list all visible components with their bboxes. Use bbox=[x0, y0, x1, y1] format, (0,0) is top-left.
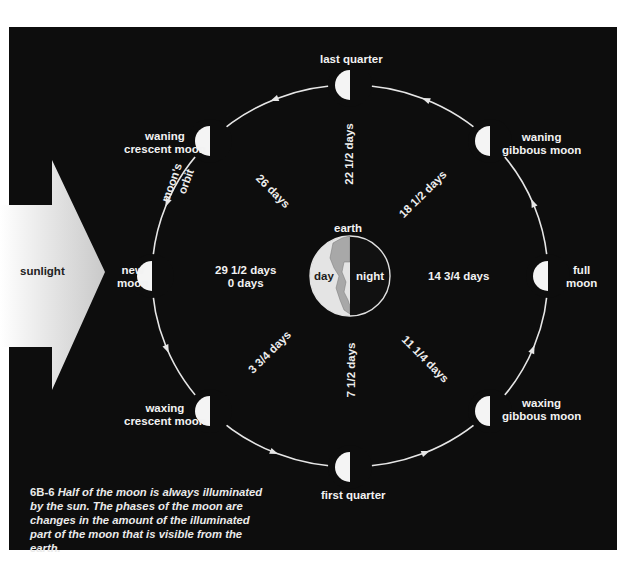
figure-caption-text: Half of the moon is always illuminated b… bbox=[30, 486, 262, 554]
phase-label-waning-crescent: waning crescent moon bbox=[124, 130, 206, 156]
orbit-direction-arrow-icon bbox=[269, 448, 278, 454]
orbit-direction-arrow-icon bbox=[163, 344, 169, 353]
phase-label-line: waxing bbox=[124, 402, 206, 415]
earth-night-label: night bbox=[356, 270, 384, 283]
earth-label: earth bbox=[334, 222, 362, 235]
days-first-quarter: 7 1/2 days bbox=[345, 343, 357, 398]
phase-label-waning-gibbous: waning gibbous moon bbox=[502, 131, 581, 157]
phase-label-line: first quarter bbox=[321, 489, 386, 502]
earth-day-label: day bbox=[314, 270, 334, 283]
orbit-direction-arrow-icon bbox=[528, 345, 534, 354]
orbit-direction-arrow-icon bbox=[421, 451, 430, 457]
phase-label-line: waning bbox=[502, 131, 581, 144]
sunlight-label: sunlight bbox=[20, 265, 65, 277]
phase-label-new-moon: new moon bbox=[117, 264, 148, 290]
phase-label-line: full bbox=[566, 264, 597, 277]
phase-label-line: gibbous moon bbox=[502, 144, 581, 157]
orbit-direction-arrow-icon bbox=[422, 98, 431, 104]
orbit-direction-arrow-icon bbox=[531, 199, 537, 208]
phase-label-line: new bbox=[117, 264, 148, 277]
phase-label-waxing-crescent: waxing crescent moon bbox=[124, 402, 206, 428]
days-line: 0 days bbox=[215, 277, 276, 290]
phase-label-line: moon bbox=[566, 277, 597, 290]
days-line: 29 1/2 days bbox=[215, 264, 276, 277]
phase-label-line: last quarter bbox=[320, 53, 383, 66]
phase-label-line: moon bbox=[117, 277, 148, 290]
phase-label-line: crescent moon bbox=[124, 143, 206, 156]
days-new-moon: 29 1/2 days 0 days bbox=[215, 264, 276, 290]
days-last-quarter: 22 1/2 days bbox=[343, 123, 355, 184]
phase-label-waxing-gibbous: waxing gibbous moon bbox=[502, 397, 581, 423]
phase-label-full-moon: full moon bbox=[566, 264, 597, 290]
days-full-moon: 14 3/4 days bbox=[428, 270, 489, 283]
figure-caption: 6B-6 Half of the moon is always illumina… bbox=[30, 485, 270, 555]
phase-label-line: gibbous moon bbox=[502, 410, 581, 423]
orbit-direction-arrow-icon bbox=[270, 95, 279, 101]
phase-label-first-quarter: first quarter bbox=[321, 489, 386, 502]
figure-number: 6B-6 bbox=[30, 486, 55, 498]
phase-label-line: crescent moon bbox=[124, 415, 206, 428]
phase-label-line: waxing bbox=[502, 397, 581, 410]
phase-label-last-quarter: last quarter bbox=[320, 53, 383, 66]
phase-label-line: waning bbox=[124, 130, 206, 143]
